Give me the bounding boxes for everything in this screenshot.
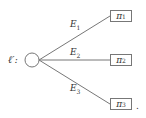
- leaf-box-3: π3: [110, 98, 132, 110]
- root-node: [25, 53, 39, 67]
- root-label: ℓ′:: [8, 54, 18, 65]
- leaf-box-2: π2: [110, 54, 132, 66]
- trailing-period: .: [136, 101, 139, 111]
- leaf-box-1: π1: [110, 10, 132, 22]
- edge-label-2: E2: [70, 48, 80, 59]
- edge-label-1: E1: [70, 20, 80, 31]
- edge-label-3: E3: [70, 84, 80, 95]
